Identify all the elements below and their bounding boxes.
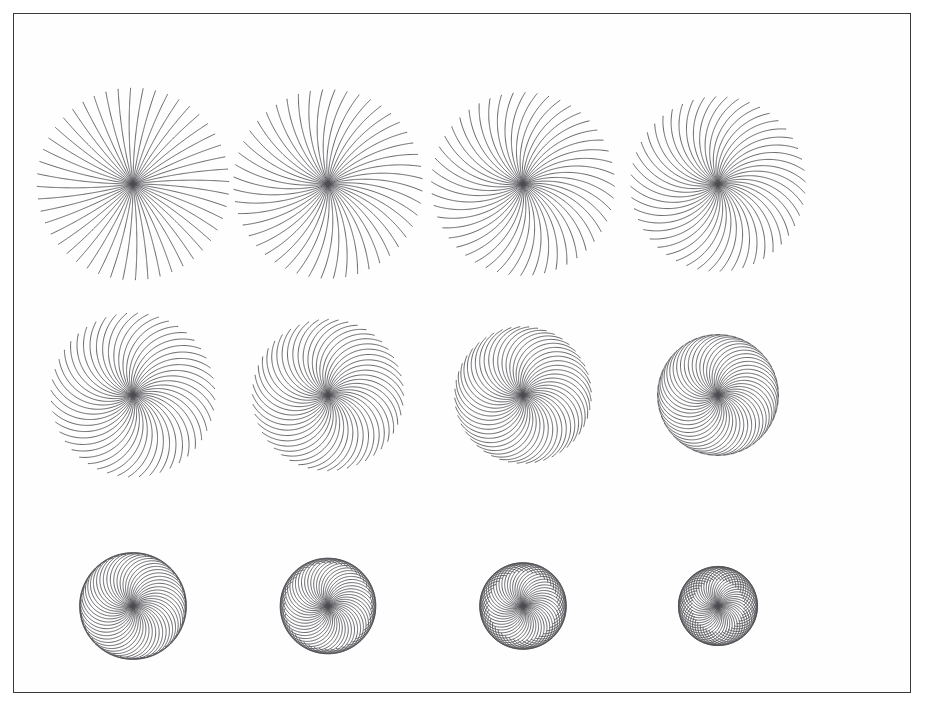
figure-root: Family of rotated circular arcs with inc… bbox=[0, 0, 926, 707]
figure-frame-border bbox=[13, 13, 911, 693]
